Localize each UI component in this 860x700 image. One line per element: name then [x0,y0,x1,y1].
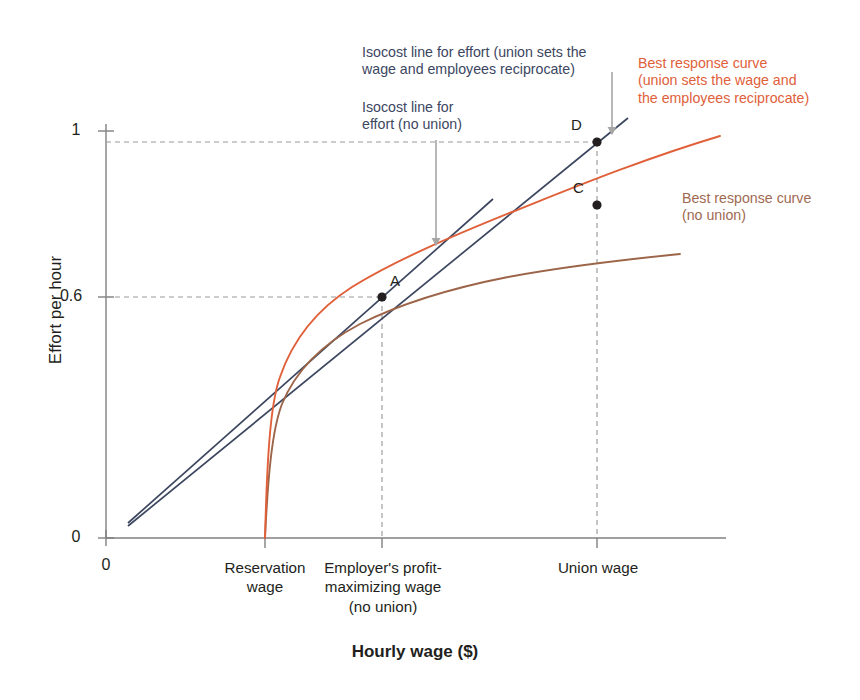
annotation-isocost-no-union: Isocost line for effort (no union) [362,99,542,134]
x-label-employer-profit-maximizing-wage: Employer's profit- maximizing wage (no u… [305,558,461,616]
best-response-curve-no-union [265,254,680,538]
y-tick-label-0: 0 [58,528,94,546]
point-label-a: A [390,272,400,289]
data-point-c [592,200,601,209]
best-response-curve-union [265,136,720,538]
y-axis-title: Effort per hour [46,210,66,410]
guide-lines-group [106,142,597,538]
data-point-d [592,137,601,146]
isocost-line-union [128,118,628,526]
annotation-isocost-union: Isocost line for effort (union sets the … [362,44,622,79]
data-point-a [377,292,386,301]
y-tick-label-1: 1 [58,121,94,139]
point-label-c: C [573,179,584,196]
point-label-d: D [571,116,582,133]
chart-figure: A D C 1 0.6 0 0 Reservation wage Employe… [0,0,860,700]
annotation-best-response-union: Best response curve (union sets the wage… [638,55,848,107]
x-label-union-wage: Union wage [530,558,666,577]
x-tick-label-0: 0 [88,556,124,574]
axes-group [98,124,726,548]
annotation-best-response-no-union: Best response curve (no union) [682,190,852,225]
x-axis-title: Hourly wage ($) [295,642,535,662]
